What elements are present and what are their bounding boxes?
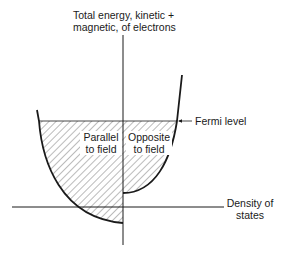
parallel-label-line2: to field xyxy=(81,143,121,155)
right-band-filled-region xyxy=(118,115,188,200)
opposite-to-field-label: Opposite to field xyxy=(126,131,172,155)
y-axis-label-line1: Total energy, kinetic + xyxy=(73,9,173,21)
y-axis-label: Total energy, kinetic + magnetic, of ele… xyxy=(73,9,173,33)
x-axis-label-line1: Density of xyxy=(226,197,274,209)
parallel-to-field-label: Parallel to field xyxy=(80,131,122,155)
opposite-label-line2: to field xyxy=(127,143,171,155)
fermi-level-label: Fermi level xyxy=(195,115,246,127)
y-axis-label-line2: magnetic, of electrons xyxy=(73,21,173,33)
x-axis-label: Density of states xyxy=(226,197,274,221)
x-axis-label-line2: states xyxy=(226,209,274,221)
opposite-label-line1: Opposite xyxy=(127,131,171,143)
parallel-label-line1: Parallel xyxy=(81,131,121,143)
fermi-arrow-icon xyxy=(178,119,182,122)
